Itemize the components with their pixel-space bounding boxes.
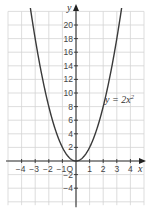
axes: [6, 4, 146, 207]
y-tick-label: 4: [68, 129, 73, 139]
y-tick-label: 6: [68, 115, 73, 125]
y-axis-label: y: [66, 2, 72, 13]
y-tick-label: 18: [64, 34, 74, 44]
y-tick-label: 12: [64, 74, 74, 84]
y-tick-label: 14: [64, 61, 74, 71]
equation-label: y = 2x2: [104, 93, 135, 105]
x-tick-label: −2: [43, 164, 53, 174]
x-tick-label: 4: [128, 164, 133, 174]
x-tick-label: 1: [87, 164, 92, 174]
y-tick-label: −4: [63, 183, 73, 193]
y-tick-label: 10: [64, 88, 74, 98]
y-tick-label: 8: [68, 102, 73, 112]
x-axis-label: x: [137, 163, 143, 174]
x-tick-label: −3: [29, 164, 39, 174]
x-tick-label: 3: [114, 164, 119, 174]
y-axis-arrow-icon: [73, 4, 79, 11]
y-tick-label: 20: [64, 20, 74, 30]
parabola-chart: −4−3−2−11234−4−22468101214161820Oxy y = …: [0, 0, 150, 209]
y-tick-label: 2: [68, 142, 73, 152]
y-tick-label: 16: [64, 47, 74, 57]
x-tick-label: −4: [16, 164, 26, 174]
x-tick-label: 2: [101, 164, 106, 174]
origin-label: O: [66, 164, 73, 174]
